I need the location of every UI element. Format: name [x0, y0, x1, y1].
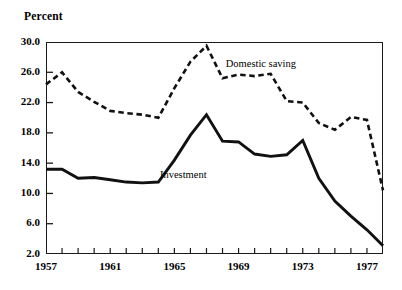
y-tick-label: 14.0: [0, 156, 40, 168]
series-label-investment: Investment: [160, 169, 207, 180]
series-line-investment: [46, 115, 383, 246]
x-tick-label: 1977: [342, 260, 392, 272]
chart-figure: Percent 2.06.010.014.018.022.026.030.0 1…: [0, 0, 402, 290]
y-tick-label: 22.0: [0, 95, 40, 107]
data-series-layer: [46, 46, 383, 246]
x-tick-label: 1973: [278, 260, 328, 272]
series-line-domestic-saving: [46, 46, 383, 191]
series-label-domestic-saving: Domestic saving: [226, 58, 296, 69]
x-tick-label: 1957: [21, 260, 71, 272]
y-tick-label: 2.0: [0, 247, 40, 259]
x-tick-label: 1969: [214, 260, 264, 272]
y-axis-ticks: [46, 72, 53, 223]
x-tick-label: 1965: [149, 260, 199, 272]
chart-canvas: [0, 0, 402, 290]
y-tick-label: 26.0: [0, 65, 40, 77]
y-tick-label: 10.0: [0, 186, 40, 198]
y-tick-label: 30.0: [0, 35, 40, 47]
x-axis-ticks: [62, 248, 367, 254]
y-tick-label: 18.0: [0, 125, 40, 137]
x-tick-label: 1961: [85, 260, 135, 272]
y-tick-label: 6.0: [0, 216, 40, 228]
